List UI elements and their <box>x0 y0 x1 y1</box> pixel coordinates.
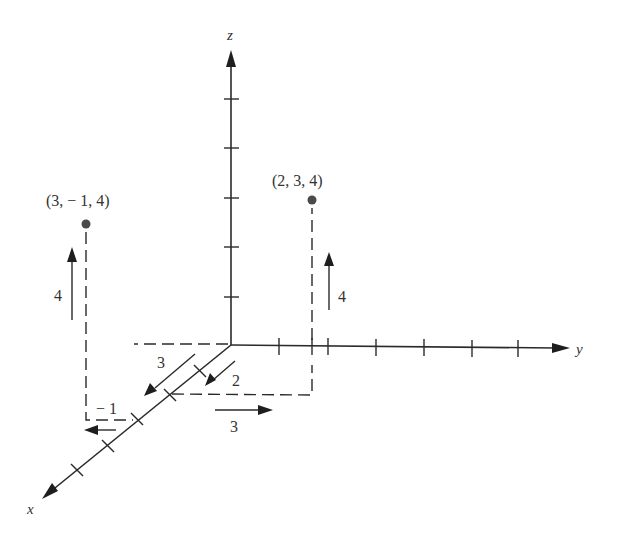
point-3-neg1-4-marker <box>82 220 91 229</box>
point-2-3-4-label: (2, 3, 4) <box>272 172 323 190</box>
z-axis-label: z <box>226 27 233 43</box>
p1-z-step-label: 4 <box>338 288 346 305</box>
point-2-3-4-marker <box>308 196 317 205</box>
p1-y-step-label: 3 <box>230 418 238 435</box>
point-3-neg1-4-label: (3, − 1, 4) <box>46 192 110 210</box>
y-axis-arrowhead-icon <box>552 343 570 353</box>
p2-z-step-label: 4 <box>54 287 62 304</box>
arrow-z-step-icon <box>324 252 334 266</box>
y-axis-label: y <box>574 341 583 357</box>
x-axis-arrowhead-icon <box>42 483 58 499</box>
arrow-x-step-icon <box>205 373 216 386</box>
p1-x-step-label: 2 <box>232 372 240 389</box>
arrow-y-step-icon <box>258 405 273 415</box>
coordinate-diagram: z y x (2, 3, 4) 2 <box>0 0 618 543</box>
arrow-z-step-icon <box>67 247 77 262</box>
z-axis: z <box>224 27 239 345</box>
arrow-neg-y-step-icon <box>84 425 98 435</box>
x-axis-label: x <box>26 501 34 517</box>
p2-y-step-label: − 1 <box>96 400 117 417</box>
y-axis: y <box>231 338 583 357</box>
point-2-3-4-construction: (2, 3, 4) 2 3 4 <box>172 172 346 435</box>
p2-x-step-label: 3 <box>157 354 165 371</box>
arrow-x-step-icon <box>144 383 157 396</box>
x-axis: x <box>26 345 231 517</box>
z-axis-arrowhead-icon <box>226 50 236 67</box>
